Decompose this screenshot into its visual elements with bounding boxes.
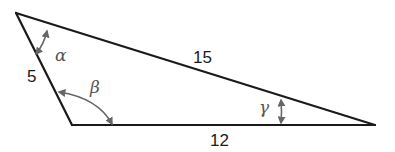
angle-gamma-arc bbox=[281, 100, 282, 123]
triangle-diagram: 5 15 12 α β γ bbox=[0, 0, 395, 152]
angle-alpha-arc bbox=[36, 31, 47, 54]
side-base-label: 12 bbox=[210, 131, 229, 150]
angle-beta-label: β bbox=[89, 77, 100, 97]
angle-beta-arc bbox=[59, 92, 112, 124]
side-left-label: 5 bbox=[27, 67, 36, 86]
side-hypotenuse-label: 15 bbox=[193, 48, 212, 67]
triangle-canvas: 5 15 12 α β γ bbox=[0, 0, 395, 152]
angle-alpha-label: α bbox=[55, 45, 67, 65]
angle-gamma-label: γ bbox=[259, 97, 270, 117]
side-left bbox=[16, 13, 72, 125]
side-hypotenuse bbox=[16, 13, 375, 125]
